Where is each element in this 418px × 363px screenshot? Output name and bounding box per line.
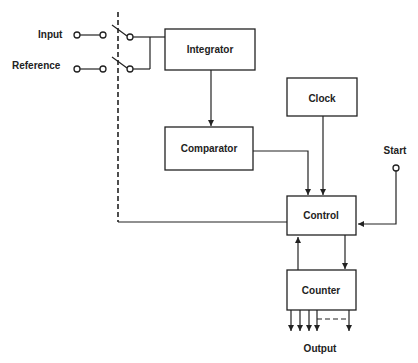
reference-switch-icon [112,57,127,68]
start-terminal: Start [358,145,407,224]
comparator-block: Comparator [165,127,253,170]
control-block: Control [287,196,356,235]
counter-block: Counter [287,270,356,310]
output-label: Output [304,343,337,354]
clock-label: Clock [308,93,336,104]
reference-terminal-right-icon [100,66,106,72]
start-to-control-arrow [358,171,396,224]
input-terminal-right-icon [100,32,106,38]
integrator-label: Integrator [187,44,234,55]
comparator-to-control-arrow [253,151,308,195]
block-diagram: Input Reference Integrator Comparator Cl… [0,0,418,363]
reference-terminal-left-icon [74,66,80,72]
input-switch-icon [112,25,127,36]
input-label: Input [38,29,63,40]
reference-label: Reference [12,60,61,71]
clock-block: Clock [287,78,357,116]
reference-terminal: Reference [12,37,150,72]
control-label: Control [303,210,339,221]
counter-label: Counter [302,285,340,296]
integrator-block: Integrator [165,29,255,70]
input-terminal: Input [38,25,165,40]
start-terminal-icon [393,165,399,171]
output-bus: Output [291,310,349,354]
input-terminal-left-icon [74,32,80,38]
start-label: Start [384,145,407,156]
comparator-label: Comparator [181,143,238,154]
